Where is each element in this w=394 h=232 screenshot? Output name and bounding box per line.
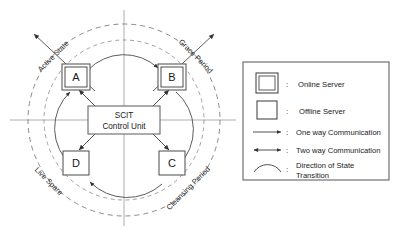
- legend-panel: : Online Server : Offline Server : One w…: [243, 62, 389, 180]
- legend-colon-5: :: [286, 165, 288, 174]
- legend-colon-1: :: [286, 80, 288, 89]
- arc-a-to-b: [88, 55, 158, 70]
- quadrant-label-live-spare: Live Spare: [33, 165, 65, 197]
- scit-rotation-diagram: A B C D SCIT Control Unit Active State G…: [0, 0, 394, 232]
- legend-colon-3: :: [286, 128, 288, 137]
- server-c-label: C: [168, 157, 176, 169]
- server-node-a[interactable]: A: [62, 64, 90, 90]
- link-cu-to-d: [79, 134, 95, 150]
- diagram-canvas: A B C D SCIT Control Unit Active State G…: [0, 0, 394, 232]
- legend-label-two-way: Two way Communication: [296, 146, 380, 155]
- double-square-icon-inner: [259, 76, 275, 90]
- legend-label-offline-server: Offline Server: [299, 107, 346, 116]
- legend-label-state-transition-line1: Direction of State: [296, 161, 354, 170]
- legend-label-one-way: One way Communication: [296, 128, 381, 137]
- legend-label-state-transition-line2: Transition: [296, 171, 329, 180]
- link-cu-to-c: [153, 134, 169, 150]
- link-cu-to-b: [153, 90, 169, 106]
- server-d-label: D: [72, 157, 80, 169]
- legend-colon-2: :: [286, 107, 288, 116]
- legend-colon-4: :: [286, 146, 288, 155]
- server-node-d[interactable]: D: [63, 151, 89, 175]
- scit-control-unit[interactable]: SCIT Control Unit: [88, 106, 160, 134]
- server-node-b[interactable]: B: [158, 64, 186, 90]
- server-b-label: B: [168, 71, 175, 83]
- server-a-label: A: [72, 71, 80, 83]
- control-unit-line1: SCIT: [115, 111, 134, 120]
- link-cu-to-a: [79, 90, 95, 106]
- legend-label-online-server: Online Server: [298, 80, 345, 89]
- single-square-icon: [257, 101, 277, 119]
- control-unit-line2: Control Unit: [102, 122, 146, 131]
- server-node-c[interactable]: C: [159, 151, 185, 175]
